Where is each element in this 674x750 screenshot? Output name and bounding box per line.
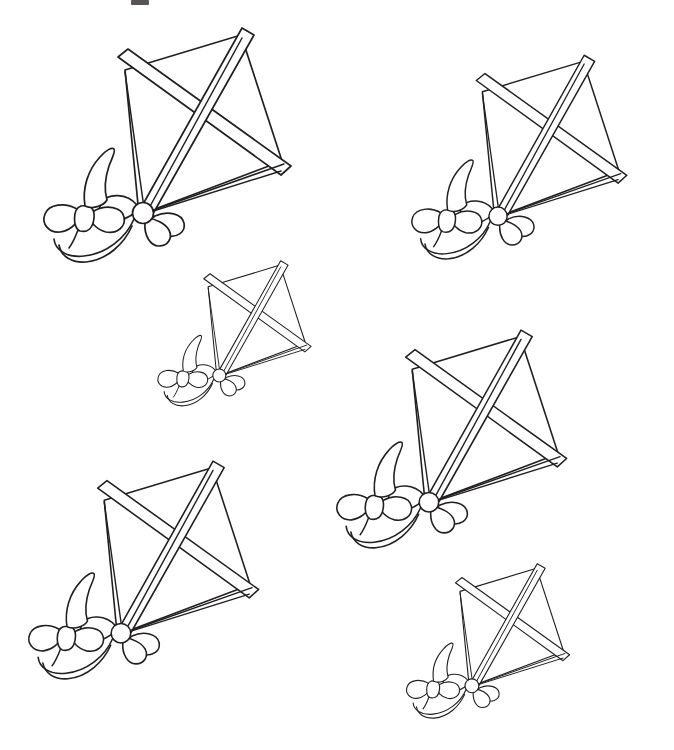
artboard xyxy=(0,0,674,750)
coloring-page: Kites Coloring Page Black and white line… xyxy=(0,0,674,750)
kite-1 xyxy=(44,28,291,262)
scan-smudge-artifact xyxy=(131,0,149,5)
kite-6 xyxy=(407,564,570,719)
kite-3 xyxy=(158,261,311,406)
kite-5 xyxy=(29,461,259,679)
kite-4 xyxy=(337,330,567,548)
kite-2 xyxy=(412,55,627,259)
kite-illustration-canvas xyxy=(0,0,674,750)
